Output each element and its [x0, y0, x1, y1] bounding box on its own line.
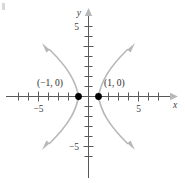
hyperbola-figure: −5 5 5 −5 x y (−1, 0) (1, 0)	[0, 0, 185, 183]
vertex-point-left	[75, 93, 82, 100]
right-branch-upper-arrow-icon	[127, 43, 135, 53]
y-axis-label: y	[76, 8, 82, 18]
y-axis	[84, 8, 94, 178]
right-branch-lower-arrow-icon	[127, 140, 135, 150]
x-tick-label-5: 5	[136, 104, 141, 114]
x-axis-label: x	[172, 100, 178, 110]
vertex-point-right	[95, 93, 102, 100]
left-vertex-label: (−1, 0)	[37, 78, 63, 89]
left-branch-upper-arrow-icon	[42, 43, 50, 53]
y-tick-label-5: 5	[74, 22, 79, 32]
y-axis-arrow-icon	[85, 8, 92, 16]
right-vertex-label: (1, 0)	[104, 78, 125, 89]
left-branch-lower-arrow-icon	[42, 140, 50, 150]
y-tick-label-minus5: −5	[69, 142, 79, 152]
x-tick-label-minus5: −5	[33, 104, 43, 114]
plot-canvas: −5 5 5 −5 x y (−1, 0) (1, 0)	[0, 0, 185, 183]
x-axis	[6, 92, 178, 102]
